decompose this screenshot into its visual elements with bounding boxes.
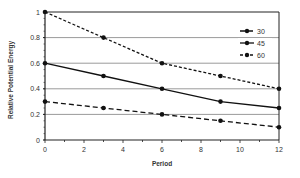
data-point [101, 106, 106, 111]
data-point [101, 74, 106, 79]
svg-text:30: 30 [257, 28, 265, 35]
data-point [101, 35, 106, 40]
data-point [43, 61, 48, 66]
svg-text:60: 60 [257, 52, 265, 59]
legend: 304560 [238, 26, 272, 60]
y-tick-label: 0.6 [30, 60, 40, 67]
data-point [160, 112, 165, 117]
x-tick-label: 8 [199, 146, 203, 153]
series-45 [43, 61, 282, 110]
data-point [43, 10, 48, 15]
y-tick-label: 0.2 [30, 111, 40, 118]
y-tick-label: 1 [36, 9, 40, 16]
data-point [160, 87, 165, 92]
data-point [218, 119, 223, 124]
y-axis-label: Relative Potential Energy [7, 41, 15, 119]
y-tick-label: 0 [36, 137, 40, 144]
y-axis-ticks: 00.20.40.60.81 [30, 9, 45, 144]
legend-item-60: 60 [238, 50, 272, 60]
x-tick-label: 12 [275, 146, 283, 153]
x-axis-label: Period [152, 160, 172, 167]
x-tick-label: 0 [43, 146, 47, 153]
x-tick-label: 2 [82, 146, 86, 153]
legend-item-45: 45 [238, 38, 272, 48]
x-tick-label: 6 [160, 146, 164, 153]
x-tick-label: 4 [121, 146, 125, 153]
x-axis-ticks: 024681012 [43, 140, 283, 153]
line-chart: 00.20.40.60.81 024681012 304560 Period R… [0, 0, 300, 178]
y-tick-label: 0.8 [30, 34, 40, 41]
data-point [43, 99, 48, 104]
y-tick-label: 0.4 [30, 85, 40, 92]
data-point [277, 106, 282, 111]
data-point [277, 87, 282, 92]
data-point [218, 99, 223, 104]
data-point [160, 61, 165, 66]
x-tick-label: 10 [236, 146, 244, 153]
legend-item-30: 30 [238, 26, 272, 36]
data-point [218, 74, 223, 79]
data-point [277, 125, 282, 130]
svg-text:45: 45 [257, 40, 265, 47]
